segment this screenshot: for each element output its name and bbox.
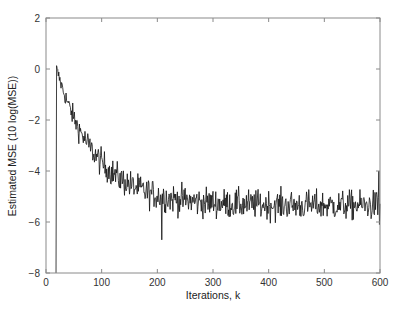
- y-axis-ticks: −8−6−4−202: [29, 13, 380, 279]
- mse-series-line: [56, 66, 380, 273]
- x-axis-label: Iterations, k: [186, 289, 241, 301]
- axes-frame: [46, 18, 380, 273]
- x-tick-label: 600: [372, 277, 389, 288]
- x-tick-label: 300: [205, 277, 222, 288]
- y-tick-label: −6: [29, 217, 41, 228]
- plot-area: [56, 66, 380, 273]
- y-axis-label: Estimated MSE (10 log(MSE)): [6, 76, 18, 217]
- x-tick-label: 400: [260, 277, 277, 288]
- y-tick-label: 0: [34, 64, 40, 75]
- x-tick-label: 0: [43, 277, 49, 288]
- y-tick-label: −2: [29, 115, 41, 126]
- x-tick-label: 100: [93, 277, 110, 288]
- y-tick-label: 2: [34, 13, 40, 24]
- y-tick-label: −4: [29, 166, 41, 177]
- x-tick-label: 200: [149, 277, 166, 288]
- x-tick-label: 500: [316, 277, 333, 288]
- y-tick-label: −8: [29, 268, 41, 279]
- mse-learning-curve-chart: 0100200300400500600 −8−6−4−202 Iteration…: [0, 0, 401, 315]
